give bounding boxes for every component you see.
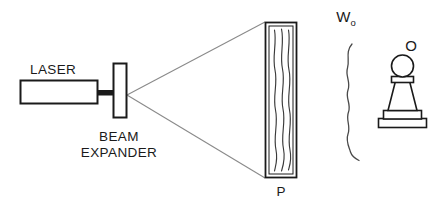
diagram-canvas: LASER BEAM EXPANDER P Wo O [0,0,439,203]
object-wave-subscript: o [350,17,355,28]
object-pawn [379,55,427,128]
optical-setup-diagram: LASER BEAM EXPANDER P Wo O [0,0,439,203]
pawn-base-lower [379,119,427,128]
holographic-plate [266,23,297,178]
beam-expander [114,64,127,118]
beam-cone-upper-ray [127,22,265,95]
beam-cone-lower-ray [127,95,265,178]
pawn-body [388,81,417,111]
object-label: O [405,37,417,54]
object-wavefront [347,44,359,161]
pawn-head [392,55,414,77]
plate-outer-frame [266,23,297,178]
beam-expander-label-line1: BEAM [99,129,139,144]
object-wave-label: Wo [336,8,355,28]
laser-body [21,81,98,104]
object-wave-symbol: W [336,8,351,25]
object-wavefront-line [347,44,359,161]
laser-label: LASER [30,62,76,77]
pawn-base-upper [384,111,422,120]
laser-output-stem [97,90,115,96]
plate-label: P [276,184,285,199]
laser-assembly [21,81,116,104]
beam-expander-body [114,64,127,118]
beam-expander-label-line2: EXPANDER [81,145,157,160]
